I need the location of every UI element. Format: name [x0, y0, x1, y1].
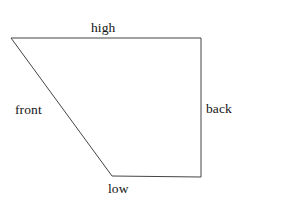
label-back: back	[206, 102, 232, 116]
diagram-canvas: high back front low	[0, 0, 283, 206]
label-front: front	[15, 103, 42, 117]
quadrilateral-shape	[0, 0, 283, 206]
label-low: low	[108, 182, 129, 196]
label-high: high	[91, 21, 115, 35]
